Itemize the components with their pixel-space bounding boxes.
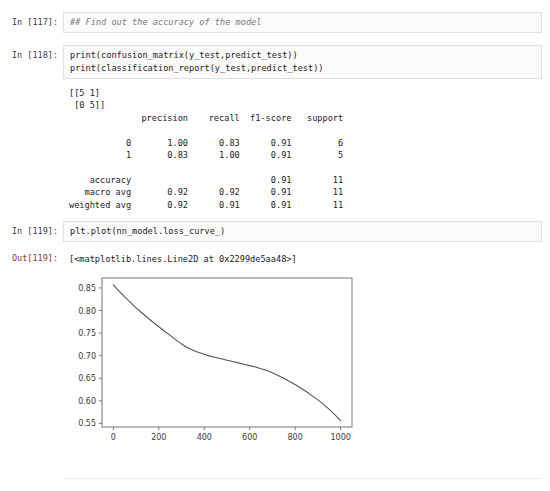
y-tick-label: 0.60	[78, 397, 96, 406]
code-line-print-confusion-matrix: print(confusion_matrix(y_test,predict_te…	[70, 49, 536, 62]
code-input-117[interactable]: ## Find out the accuracy of the model	[63, 12, 542, 33]
x-tick-label: 200	[151, 433, 166, 442]
x-tick-label: 600	[242, 433, 257, 442]
jupyter-notebook: In [117]: ## Find out the accuracy of th…	[0, 0, 550, 491]
matplotlib-figure-wrap: 02004006008001000 0.550.600.650.700.750.…	[0, 268, 550, 450]
y-tick-label: 0.80	[78, 307, 96, 316]
code-line-print-classification-report: print(classification_report(y_test,predi…	[70, 62, 536, 75]
top-spacer	[0, 0, 550, 12]
loss-curve-figure: 02004006008001000 0.550.600.650.700.750.…	[64, 272, 364, 450]
code-line-comment: ## Find out the accuracy of the model	[70, 16, 536, 29]
y-tick-label: 0.75	[78, 329, 96, 338]
loss-curve-svg: 02004006008001000 0.550.600.650.700.750.…	[64, 272, 364, 450]
cell-spacer-2	[0, 213, 550, 221]
x-tick-label: 800	[288, 433, 303, 442]
x-axis-ticks: 02004006008001000	[111, 427, 351, 442]
code-input-119[interactable]: plt.plot(nn_model.loss_curve_)	[63, 221, 542, 242]
axes-frame	[102, 278, 352, 427]
notebook-output-118: [[5 1] [0 5]] precision recall f1-score …	[0, 79, 550, 213]
y-tick-label: 0.70	[78, 352, 96, 361]
x-tick-label: 1000	[330, 433, 350, 442]
y-tick-label: 0.55	[78, 419, 96, 428]
y-tick-label: 0.65	[78, 374, 96, 383]
notebook-output-119: Out[119]: [<matplotlib.lines.Line2D at 0…	[0, 248, 550, 268]
cell-prompt-in-117: In [117]:	[0, 12, 63, 29]
x-tick-label: 0	[111, 433, 116, 442]
cell-prompt-in-119: In [119]:	[0, 221, 63, 238]
notebook-cell-119[interactable]: In [119]: plt.plot(nn_model.loss_curve_)	[0, 221, 550, 242]
notebook-cell-117[interactable]: In [117]: ## Find out the accuracy of th…	[0, 12, 550, 33]
cell-prompt-in-118: In [118]:	[0, 45, 63, 62]
matplotlib-line2d-repr: [<matplotlib.lines.Line2D at 0x2299de5aa…	[69, 250, 545, 266]
notebook-cell-118[interactable]: In [118]: print(confusion_matrix(y_test,…	[0, 45, 550, 79]
y-axis-ticks: 0.550.600.650.700.750.800.85	[78, 284, 102, 428]
next-cell-separator	[64, 478, 542, 479]
x-tick-label: 400	[197, 433, 212, 442]
python-comment-text: ## Find out the accuracy of the model	[70, 17, 261, 27]
y-tick-label: 0.85	[78, 284, 96, 293]
code-line-plt-plot: plt.plot(nn_model.loss_curve_)	[70, 225, 536, 238]
cell-spacer-1	[0, 33, 550, 45]
classification-report-text: [[5 1] [0 5]] precision recall f1-score …	[69, 87, 545, 211]
code-input-118[interactable]: print(confusion_matrix(y_test,predict_te…	[63, 45, 542, 79]
result-repr-area-119: [<matplotlib.lines.Line2D at 0x2299de5aa…	[63, 248, 550, 268]
cell-prompt-out-118-blank	[0, 79, 63, 83]
stdout-area-118: [[5 1] [0 5]] precision recall f1-score …	[63, 79, 550, 213]
cell-prompt-out-119: Out[119]:	[0, 248, 63, 265]
